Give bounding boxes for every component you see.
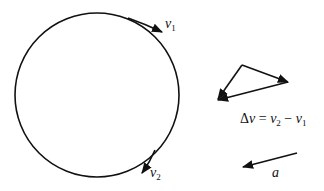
v1-vector-arrow bbox=[128, 18, 162, 32]
triangle-v2-side bbox=[218, 65, 242, 99]
triangle-v1-arrow bbox=[242, 65, 288, 82]
acceleration-arrow bbox=[243, 153, 297, 167]
diagram-canvas: v1 v2 Δv = v2 − v1 a bbox=[0, 0, 324, 191]
v2-label: v2 bbox=[150, 165, 161, 182]
delta-v-equation: Δv = v2 − v1 bbox=[240, 111, 306, 128]
acceleration-label: a bbox=[272, 165, 279, 180]
v1-label: v1 bbox=[165, 16, 176, 33]
